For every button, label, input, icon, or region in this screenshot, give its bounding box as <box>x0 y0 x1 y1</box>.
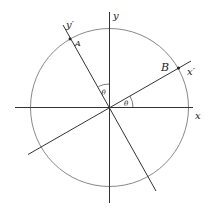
point-a <box>69 38 72 41</box>
angle-arc-x <box>130 96 133 108</box>
x-prime-label: x′ <box>187 66 196 77</box>
theta-label-x: θ <box>124 100 129 108</box>
rotated-axes-diagram: y′ y A B x′ x θ θ <box>0 0 212 212</box>
theta-label-y: θ <box>102 89 107 97</box>
y-prime-label: y′ <box>65 19 75 30</box>
angle-arc-y <box>99 84 110 87</box>
point-a-label: A <box>74 39 81 48</box>
y-label: y <box>112 10 119 21</box>
point-b <box>177 66 180 69</box>
x-label: x <box>195 110 201 121</box>
point-b-label: B <box>160 61 169 74</box>
